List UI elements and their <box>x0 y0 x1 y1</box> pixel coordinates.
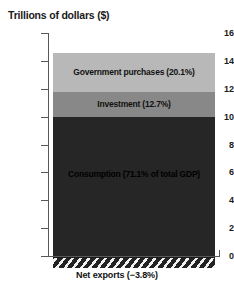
y-tick-mark <box>41 89 48 90</box>
net-exports-hatched-band <box>53 257 215 268</box>
bar-segment-government-purchases[interactable]: Government purchases (20.1%) <box>53 53 215 92</box>
net-exports-label: Net exports (−3.8%) <box>0 270 234 280</box>
y-tick-mark <box>41 61 48 62</box>
y-tick-mark <box>41 117 48 118</box>
y-tick-mark <box>41 145 48 146</box>
bar-segment-label: Consumption (71.1% of total GDP) <box>68 169 200 179</box>
bar-segment-investment[interactable]: Investment (12.7%) <box>53 92 215 117</box>
y-axis-line <box>48 33 49 257</box>
y-tick-mark <box>41 172 48 173</box>
bar-segment-label: Investment (12.7%) <box>97 99 170 109</box>
bar-segment-consumption[interactable]: Consumption (71.1% of total GDP) <box>53 117 215 256</box>
bar-segment-label: Government purchases (20.1%) <box>73 67 194 77</box>
gdp-components-chart: Trillions of dollars ($) 1614121086420 C… <box>0 0 234 290</box>
y-tick-mark <box>41 33 48 34</box>
y-tick-mark <box>41 228 48 229</box>
plot-area: 1614121086420 Consumption (71.1% of tota… <box>0 0 234 290</box>
y-tick-mark <box>41 256 48 257</box>
y-tick-label: 16 <box>200 28 234 38</box>
baseline-end-tick <box>219 250 220 257</box>
y-tick-mark <box>41 200 48 201</box>
